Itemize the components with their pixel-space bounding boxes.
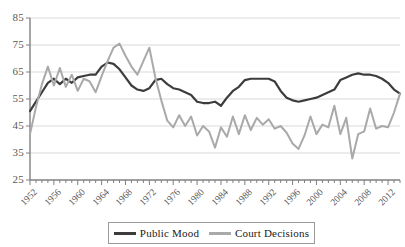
- legend-swatch-court-decisions: [209, 232, 231, 235]
- y-tick-label-85: 85: [2, 11, 24, 23]
- y-tick-label-25: 25: [2, 173, 24, 185]
- y-tick-label-35: 35: [2, 146, 24, 158]
- x-axis-ticks: [30, 180, 400, 185]
- y-tick-label-45: 45: [2, 119, 24, 131]
- y-tick-label-55: 55: [2, 92, 24, 104]
- data-series-lines: [30, 44, 400, 159]
- legend-label-public-mood: Public Mood: [140, 227, 199, 239]
- legend-item-court-decisions: Court Decisions: [209, 227, 309, 239]
- chart-legend: Public Mood Court Decisions: [108, 222, 315, 244]
- legend-swatch-public-mood: [114, 232, 136, 235]
- gridlines: [30, 18, 400, 153]
- legend-label-court-decisions: Court Decisions: [235, 227, 309, 239]
- legend-item-public-mood: Public Mood: [114, 227, 199, 239]
- y-tick-label-65: 65: [2, 65, 24, 77]
- y-tick-label-75: 75: [2, 38, 24, 50]
- line-chart-figure: 85756555453525 1952195619601964196819721…: [0, 0, 405, 247]
